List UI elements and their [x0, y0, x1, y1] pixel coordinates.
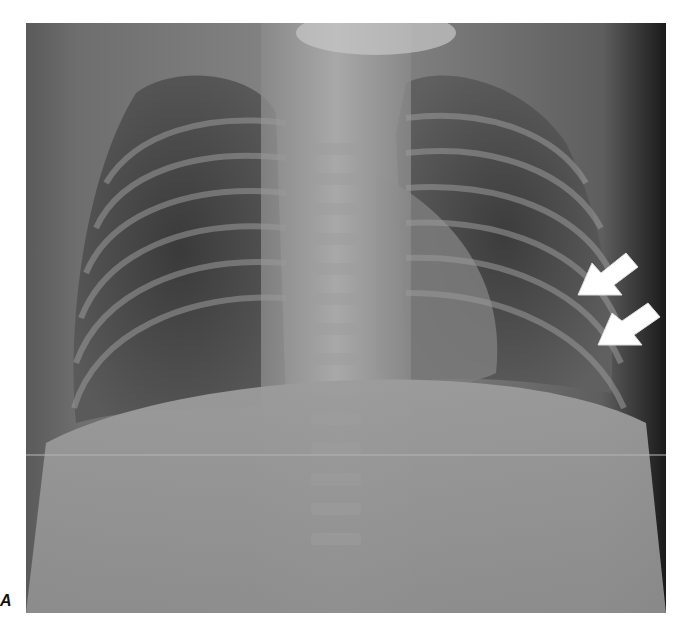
- panel-label: A: [0, 592, 12, 610]
- chest-radiograph: [26, 23, 666, 613]
- arrow-icon: [578, 253, 638, 295]
- arrow-icon: [598, 303, 660, 345]
- annotation-layer: [26, 23, 666, 613]
